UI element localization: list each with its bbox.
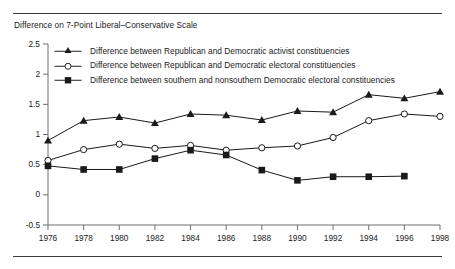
marker-filled-square xyxy=(152,155,159,162)
figure-container: Difference on 7-Point Liberal–Conservati… xyxy=(0,0,455,269)
y-tick-label: 1 xyxy=(10,129,40,139)
marker-filled-square xyxy=(330,173,337,180)
marker-filled-triangle xyxy=(44,137,52,144)
marker-open-circle xyxy=(116,141,122,147)
marker-open-circle xyxy=(330,134,336,140)
marker-filled-square xyxy=(365,173,372,180)
series-line xyxy=(48,114,440,160)
x-tick-label: 1986 xyxy=(206,233,246,243)
series-line xyxy=(48,92,440,141)
marker-filled-triangle xyxy=(436,88,444,95)
legend-key-filled-square-icon xyxy=(52,73,84,88)
marker-filled-triangle xyxy=(115,113,123,120)
legend-key-open-circle-icon xyxy=(52,59,84,74)
marker-open-circle xyxy=(259,145,265,151)
x-tick-label: 1980 xyxy=(99,233,139,243)
legend-label-activist: Difference between Republican and Democr… xyxy=(90,46,349,56)
marker-open-circle xyxy=(294,143,300,149)
legend-label-electoral: Difference between Republican and Democr… xyxy=(90,60,356,70)
marker-filled-square xyxy=(401,173,408,180)
y-tick-label: -0.5 xyxy=(10,220,40,230)
chart-legend: Difference between Republican and Democr… xyxy=(52,44,448,88)
marker-open-circle xyxy=(366,118,372,124)
legend-item-electoral: Difference between Republican and Democr… xyxy=(52,59,448,74)
marker-filled-square xyxy=(187,147,194,154)
marker-filled-square xyxy=(294,177,301,184)
legend-label-southern: Difference between southern and nonsouth… xyxy=(90,75,395,85)
marker-filled-square xyxy=(259,167,266,174)
marker-open-circle xyxy=(152,145,158,151)
y-tick-label: 0 xyxy=(10,189,40,199)
marker-open-circle xyxy=(437,113,443,119)
series-0 xyxy=(44,88,444,144)
marker-filled-square xyxy=(116,166,123,173)
legend-item-southern: Difference between southern and nonsouth… xyxy=(52,73,448,88)
x-tick-label: 1978 xyxy=(64,233,104,243)
line-chart-plot xyxy=(0,0,455,269)
legend-key-filled-triangle-icon xyxy=(52,44,84,59)
x-tick-label: 1996 xyxy=(384,233,424,243)
marker-open-circle xyxy=(401,111,407,117)
marker-filled-square xyxy=(45,163,52,170)
marker-filled-triangle xyxy=(293,107,301,114)
x-tick-label: 1976 xyxy=(28,233,68,243)
marker-filled-square xyxy=(223,152,230,159)
x-tick-label: 1994 xyxy=(349,233,389,243)
y-tick-label: 2 xyxy=(10,69,40,79)
x-tick-label: 1982 xyxy=(135,233,175,243)
x-tick-label: 1988 xyxy=(242,233,282,243)
x-tick-label: 1998 xyxy=(420,233,455,243)
marker-filled-square xyxy=(80,166,87,173)
marker-filled-triangle xyxy=(187,110,195,117)
marker-open-circle xyxy=(81,146,87,152)
y-tick-label: 0.5 xyxy=(10,159,40,169)
series-2 xyxy=(45,147,408,184)
x-tick-label: 1984 xyxy=(171,233,211,243)
legend-item-activist: Difference between Republican and Democr… xyxy=(52,44,448,59)
x-tick-label: 1990 xyxy=(277,233,317,243)
marker-filled-triangle xyxy=(365,91,373,98)
y-tick-label: 2.5 xyxy=(10,39,40,49)
y-tick-label: 1.5 xyxy=(10,99,40,109)
x-tick-label: 1992 xyxy=(313,233,353,243)
